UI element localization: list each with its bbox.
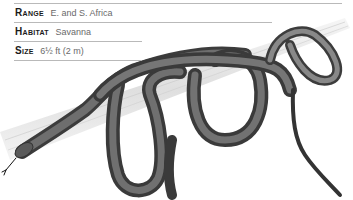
fact-label-habitat: Habitat — [15, 26, 49, 37]
divider — [14, 41, 142, 42]
fact-value-range: E. and S. Africa — [50, 8, 112, 18]
fact-label-size: Size — [15, 45, 34, 56]
divider — [14, 60, 142, 61]
fact-label-range: Range — [15, 7, 44, 18]
fact-value-size: 6½ ft (2 m) — [40, 46, 84, 56]
divider — [14, 3, 342, 4]
fact-row-size: Size 6½ ft (2 m) — [15, 45, 84, 57]
fact-row-range: Range E. and S. Africa — [15, 7, 113, 19]
fact-row-habitat: Habitat Savanna — [15, 26, 91, 38]
fact-value-habitat: Savanna — [55, 27, 91, 37]
divider — [14, 22, 272, 23]
